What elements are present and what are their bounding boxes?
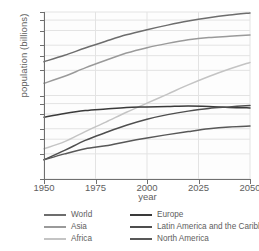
- legend-label: Africa: [71, 233, 92, 245]
- y-tick-mark: [40, 70, 44, 71]
- y-tick-mark: [40, 56, 44, 57]
- x-tick-mark: [96, 180, 97, 184]
- x-tick-mark: [147, 180, 148, 184]
- x-tick-mark: [250, 180, 251, 184]
- y-tick-mark: [40, 96, 44, 97]
- data-lines: [44, 12, 250, 179]
- series-line: [44, 62, 250, 148]
- y-tick-mark: [40, 45, 44, 46]
- y-tick-mark: [40, 139, 44, 140]
- legend-item[interactable]: Latin America and the Caribbean: [130, 221, 259, 233]
- y-tick-mark: [40, 114, 44, 115]
- x-tick-mark: [44, 180, 45, 184]
- series-line: [44, 126, 250, 160]
- legend-label: North America: [157, 233, 209, 245]
- legend-swatch-icon: [130, 226, 152, 228]
- y-tick-mark: [40, 129, 44, 130]
- population-chart-figure: population (billions) year 0.10.20.30.40…: [0, 0, 259, 251]
- legend-label: Asia: [71, 221, 87, 233]
- chart-legend: WorldEuropeAsiaLatin America and the Car…: [44, 209, 259, 245]
- legend-swatch-icon: [130, 238, 152, 240]
- legend-label: World: [71, 209, 92, 221]
- legend-item[interactable]: North America: [130, 233, 259, 245]
- legend-item[interactable]: World: [44, 209, 130, 221]
- legend-item[interactable]: Europe: [130, 209, 259, 221]
- legend-swatch-icon: [44, 238, 66, 240]
- legend-swatch-icon: [130, 214, 152, 216]
- y-tick-mark: [40, 154, 44, 155]
- y-tick-mark: [40, 31, 44, 32]
- y-tick-mark: [40, 12, 44, 13]
- legend-swatch-icon: [44, 226, 66, 228]
- y-axis-label: population (billions): [18, 0, 29, 131]
- y-axis-spine: [44, 12, 45, 180]
- y-tick-mark: [40, 20, 44, 21]
- series-line: [44, 35, 250, 83]
- legend-item[interactable]: Africa: [44, 233, 130, 245]
- plot-area: [44, 12, 250, 179]
- legend-label: Latin America and the Caribbean: [157, 221, 259, 233]
- legend-label: Europe: [157, 209, 183, 221]
- legend-swatch-icon: [44, 214, 66, 216]
- legend-item[interactable]: Asia: [44, 221, 130, 233]
- x-tick-mark: [199, 180, 200, 184]
- y-tick-mark: [40, 104, 44, 105]
